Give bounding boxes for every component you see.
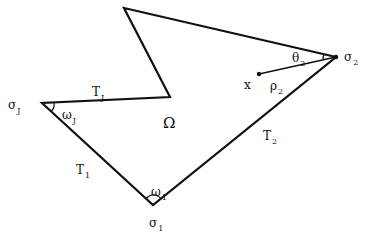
sigma-2-subscript: 2 — [353, 58, 358, 67]
region-omega-label: Ω — [163, 115, 175, 131]
sigma-2-symbol: σ — [344, 50, 352, 64]
x-point-dot — [257, 72, 261, 76]
sigma-1-label: σ1 — [149, 214, 163, 230]
rho-2-symbol: ρ — [270, 79, 277, 93]
T-J-label: TJ — [92, 83, 104, 99]
omega-1-subscript: 1 — [162, 193, 167, 202]
theta-2-symbol: θ — [292, 51, 299, 65]
omega-J-label: ωJ — [62, 106, 76, 122]
x-point-label: x — [244, 76, 251, 92]
rho-2-subscript: 2 — [278, 87, 283, 96]
T-2-label: T2 — [263, 127, 277, 143]
sigma-1-symbol: σ — [149, 216, 157, 230]
sigma-2-label: σ2 — [344, 48, 358, 64]
T-J-symbol: T — [92, 85, 100, 99]
rho-2-label: ρ2 — [270, 77, 283, 93]
T-2-symbol: T — [263, 129, 271, 143]
omega-J-arc-icon — [51, 103, 54, 112]
diagram-canvas — [0, 0, 374, 251]
sigma-J-subscript: J — [17, 106, 20, 115]
sigma-J-label: σJ — [8, 96, 20, 112]
omega-1-label: ω1 — [151, 183, 167, 199]
sigma-1-subscript: 1 — [158, 224, 163, 233]
x-point-symbol: x — [244, 78, 251, 92]
theta-2-label: θ2 — [292, 49, 305, 65]
omega-1-symbol: ω — [151, 185, 161, 199]
T-2-subscript: 2 — [272, 137, 277, 146]
T-1-subscript: 1 — [85, 171, 90, 180]
omega-J-subscript: J — [73, 116, 76, 125]
theta-2-subscript: 2 — [300, 59, 305, 68]
omega-J-symbol: ω — [62, 108, 72, 122]
T-J-subscript: J — [101, 93, 104, 102]
T-1-symbol: T — [76, 163, 84, 177]
sigma-J-symbol: σ — [8, 98, 16, 112]
region-omega-symbol: Ω — [163, 114, 175, 132]
T-1-label: T1 — [76, 161, 90, 177]
polygon-domain-diagram: Ω σJ TJ ωJ T1 ω1 σ1 T2 σ2 θ2 ρ2 x — [0, 0, 374, 251]
sigma-2-dot — [334, 55, 338, 59]
